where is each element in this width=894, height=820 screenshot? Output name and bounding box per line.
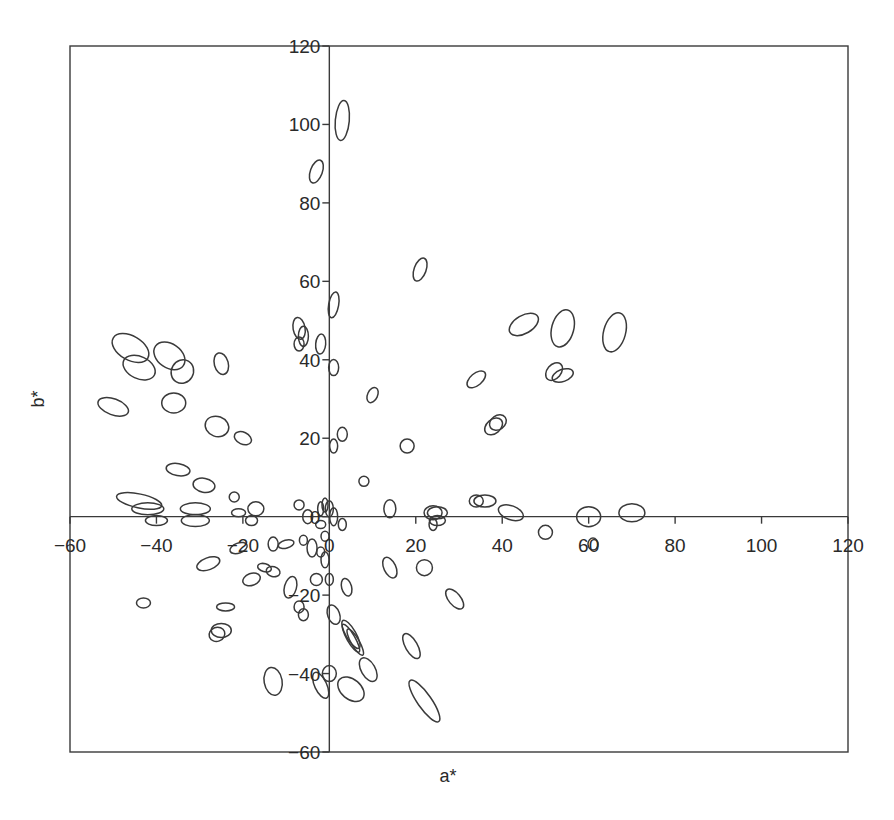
- x-tick-label: 0: [324, 535, 335, 556]
- y-tick-label: 120: [289, 36, 321, 57]
- confidence-ellipse: [338, 519, 346, 531]
- confidence-ellipse: [299, 535, 307, 545]
- confidence-ellipse: [202, 413, 231, 440]
- confidence-ellipse: [207, 625, 227, 644]
- confidence-ellipse: [442, 586, 467, 612]
- confidence-ellipse: [380, 555, 400, 580]
- confidence-ellipse: [241, 571, 262, 588]
- confidence-ellipse: [232, 429, 253, 447]
- confidence-ellipse: [180, 503, 210, 515]
- confidence-ellipse: [195, 554, 222, 573]
- confidence-ellipse: [547, 307, 578, 349]
- confidence-ellipse: [333, 672, 369, 707]
- confidence-ellipse: [416, 560, 432, 576]
- confidence-ellipse: [268, 537, 278, 551]
- confidence-ellipse: [329, 360, 339, 376]
- y-tick-label: −60: [288, 742, 320, 763]
- confidence-ellipse: [257, 562, 273, 573]
- x-tick-label: −60: [54, 535, 86, 556]
- confidence-ellipse: [95, 394, 131, 420]
- x-tick-label: 40: [492, 535, 513, 556]
- confidence-ellipse: [212, 351, 231, 376]
- y-tick-label: −40: [288, 664, 320, 685]
- y-tick-label: 0: [310, 507, 321, 528]
- x-axis-title: a*: [439, 766, 456, 786]
- plot-frame: [70, 46, 848, 752]
- tick-labels: −60−40−20020406080100120−60−40−200204060…: [54, 36, 864, 763]
- confidence-ellipse: [307, 158, 326, 185]
- confidence-ellipse: [487, 412, 510, 434]
- y-tick-label: −20: [288, 585, 320, 606]
- confidence-ellipse: [307, 539, 317, 557]
- confidence-ellipse: [404, 677, 444, 726]
- confidence-ellipse: [384, 500, 396, 518]
- y-tick-label: 60: [299, 271, 320, 292]
- x-tick-label: 20: [405, 535, 426, 556]
- confidence-ellipse: [481, 415, 505, 439]
- confidence-ellipse: [211, 623, 231, 637]
- confidence-ellipse: [400, 439, 414, 453]
- confidence-ellipse: [496, 502, 525, 524]
- confidence-ellipse: [162, 393, 186, 413]
- x-tick-label: −40: [140, 535, 172, 556]
- confidence-ellipse: [192, 476, 216, 494]
- confidence-ellipse: [410, 256, 429, 283]
- confidence-ellipse: [505, 309, 542, 341]
- ellipse-series: [95, 100, 644, 726]
- confidence-ellipse: [599, 310, 631, 354]
- confidence-ellipse: [399, 631, 423, 661]
- x-tick-label: 100: [746, 535, 778, 556]
- ellipse-scatter-chart: −60−40−20020406080100120−60−40−200204060…: [0, 0, 894, 820]
- confidence-ellipse: [365, 386, 381, 405]
- confidence-ellipse: [262, 666, 285, 697]
- confidence-ellipse: [107, 328, 154, 369]
- plot-area-border: [70, 46, 848, 752]
- confidence-ellipse: [326, 291, 340, 318]
- confidence-ellipse: [619, 504, 645, 522]
- confidence-ellipse: [550, 366, 575, 385]
- confidence-ellipse: [167, 356, 198, 388]
- confidence-ellipse: [538, 525, 552, 539]
- confidence-ellipse: [248, 502, 264, 516]
- confidence-ellipse: [165, 462, 191, 478]
- y-tick-label: 40: [299, 350, 320, 371]
- confidence-ellipse: [325, 603, 343, 626]
- confidence-ellipse: [356, 655, 381, 685]
- confidence-ellipse: [232, 509, 246, 517]
- confidence-ellipse: [339, 577, 353, 597]
- y-axis-title: b*: [28, 390, 48, 407]
- confidence-ellipse: [217, 603, 235, 611]
- confidence-ellipse: [337, 427, 347, 441]
- confidence-ellipse: [359, 476, 369, 486]
- confidence-ellipse: [310, 573, 322, 585]
- y-tick-label: 100: [289, 114, 321, 135]
- x-tick-label: 60: [578, 535, 599, 556]
- y-tick-label: 80: [299, 193, 320, 214]
- confidence-ellipse: [115, 489, 163, 512]
- confidence-ellipse: [229, 492, 239, 502]
- confidence-ellipse: [330, 439, 338, 453]
- confidence-ellipse: [294, 500, 304, 510]
- confidence-ellipse: [277, 538, 295, 550]
- confidence-ellipse: [474, 495, 496, 507]
- x-tick-label: −20: [227, 535, 259, 556]
- axes: [70, 46, 848, 752]
- confidence-ellipse: [334, 100, 351, 141]
- x-tick-label: 120: [832, 535, 864, 556]
- confidence-ellipse: [464, 368, 489, 391]
- x-tick-label: 80: [665, 535, 686, 556]
- confidence-ellipse: [119, 350, 159, 384]
- confidence-ellipse: [136, 598, 150, 608]
- confidence-ellipse: [542, 359, 566, 383]
- y-tick-label: 20: [299, 428, 320, 449]
